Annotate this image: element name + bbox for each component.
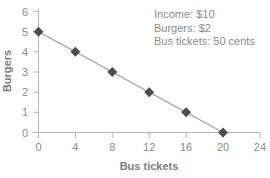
y-tick-label-0: 0 bbox=[6, 127, 28, 138]
x-tick-label-24: 24 bbox=[254, 142, 266, 153]
y-tick-label-5: 5 bbox=[6, 26, 28, 37]
x-tick-label-20: 20 bbox=[217, 142, 229, 153]
budget-constraint-chart: 0 1 2 3 4 5 6 0 4 8 12 16 20 24 Bus tick… bbox=[0, 0, 270, 178]
data-point-marker bbox=[144, 87, 154, 97]
data-point-marker bbox=[107, 67, 117, 77]
data-point-marker bbox=[70, 47, 80, 57]
data-point-marker bbox=[218, 128, 228, 138]
data-point-marker bbox=[181, 107, 191, 117]
data-point-marker bbox=[34, 27, 44, 37]
y-tick-label-6: 6 bbox=[6, 6, 28, 17]
annotation-bus-ticket-price: Bus tickets: 50 cents bbox=[154, 35, 255, 49]
y-axis-title: Burgers bbox=[2, 50, 13, 92]
annotation-income: Income: $10 bbox=[154, 8, 255, 22]
x-tick-label-4: 4 bbox=[72, 142, 78, 153]
annotation-block: Income: $10 Burgers: $2 Bus tickets: 50 … bbox=[154, 8, 255, 49]
annotation-burgers-price: Burgers: $2 bbox=[154, 22, 255, 36]
x-axis-title: Bus tickets bbox=[120, 161, 179, 172]
x-tick-label-8: 8 bbox=[109, 142, 115, 153]
x-tick-label-12: 12 bbox=[143, 142, 155, 153]
y-tick-label-1: 1 bbox=[6, 107, 28, 118]
x-tick-label-16: 16 bbox=[180, 142, 192, 153]
x-tick-label-0: 0 bbox=[35, 142, 41, 153]
